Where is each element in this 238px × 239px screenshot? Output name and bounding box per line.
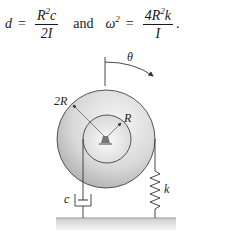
pivot-base <box>99 143 112 145</box>
spring-label: k <box>164 182 170 196</box>
inner-radius-label: R <box>123 111 132 125</box>
pulley-diagram: θ 2R R c k <box>0 0 238 239</box>
outer-radius-label: 2R <box>54 94 68 108</box>
theta-arrow-icon <box>105 62 153 76</box>
damper-label: c <box>64 192 70 206</box>
spring <box>150 171 160 209</box>
ground <box>56 218 176 230</box>
theta-label: θ <box>127 50 133 64</box>
